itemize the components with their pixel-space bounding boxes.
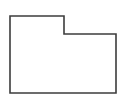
diagram-canvas: L-shaped stepped hexagon outline: [0, 0, 125, 105]
l-shaped-polygon-outline: [10, 16, 116, 93]
polygon-shape-svg: L-shaped stepped hexagon outline: [0, 0, 125, 105]
